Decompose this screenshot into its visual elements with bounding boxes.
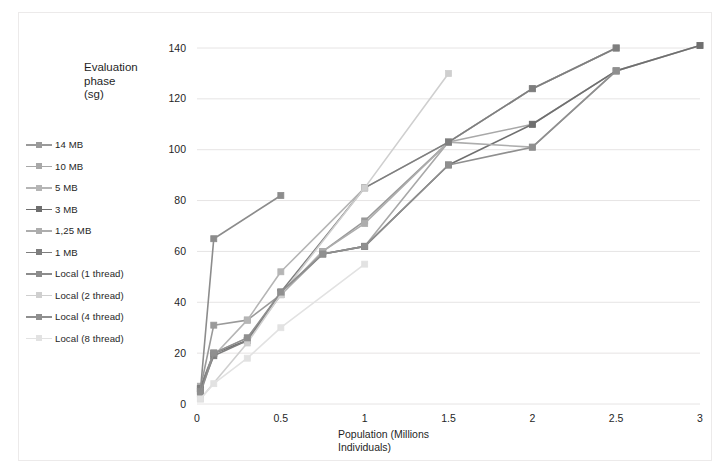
data-point <box>362 220 368 226</box>
series-line <box>200 48 616 391</box>
x-tick-label: 1 <box>362 412 368 424</box>
data-point <box>211 236 217 242</box>
data-point <box>362 243 368 249</box>
series-1-mb <box>197 45 619 392</box>
data-point <box>278 325 284 331</box>
series-line <box>200 264 364 399</box>
chart-svg: 020406080100120140 00.511.522.53 <box>0 0 726 475</box>
y-tick-label: 120 <box>168 92 186 104</box>
series-line <box>200 73 448 398</box>
data-point <box>362 185 368 191</box>
y-tick-label: 40 <box>174 296 186 308</box>
series-line <box>200 71 616 394</box>
data-point <box>613 68 619 74</box>
data-point <box>529 86 535 92</box>
series-10-mb <box>197 42 703 389</box>
series-local-2-thread- <box>197 70 451 401</box>
series-line <box>200 195 280 391</box>
data-point <box>320 251 326 257</box>
x-tick-label: 0.5 <box>274 412 289 424</box>
data-point <box>613 45 619 51</box>
series-line <box>200 45 700 388</box>
plot-area: 020406080100120140 00.511.522.53 <box>0 0 726 475</box>
x-tick-label: 1.5 <box>441 412 456 424</box>
data-point <box>211 322 217 328</box>
gridlines <box>197 48 700 404</box>
x-tick-label: 2.5 <box>609 412 624 424</box>
data-point <box>244 355 250 361</box>
data-point <box>278 289 284 295</box>
y-tick-label: 20 <box>174 347 186 359</box>
data-point <box>278 192 284 198</box>
data-point <box>211 381 217 387</box>
series-5-mb <box>197 45 619 394</box>
data-point <box>278 269 284 275</box>
data-point <box>211 350 217 356</box>
data-point <box>362 261 368 267</box>
y-tick-label: 0 <box>180 398 186 410</box>
y-tick-labels: 020406080100120140 <box>168 42 186 410</box>
series-local-8-thread- <box>197 261 367 402</box>
x-tick-label: 2 <box>529 412 535 424</box>
y-tick-label: 140 <box>168 42 186 54</box>
data-point <box>446 162 452 168</box>
series-local-4-thread- <box>197 68 619 397</box>
data-point <box>697 42 703 48</box>
x-axis-title: Population (Millions Individuals) <box>338 428 468 453</box>
x-tick-label: 3 <box>697 412 703 424</box>
data-point <box>529 121 535 127</box>
series-3-mb <box>197 42 703 391</box>
data-point <box>244 317 250 323</box>
y-tick-label: 60 <box>174 245 186 257</box>
y-tick-label: 100 <box>168 143 186 155</box>
data-point <box>197 396 203 402</box>
data-point <box>529 144 535 150</box>
series-line <box>200 45 700 386</box>
series-14-mb <box>197 45 619 392</box>
y-tick-label: 80 <box>174 194 186 206</box>
data-point <box>244 335 250 341</box>
data-point <box>446 139 452 145</box>
x-tick-labels: 00.511.522.53 <box>194 412 703 424</box>
data-point <box>446 70 452 76</box>
data-series <box>197 42 703 401</box>
chart-page: Evaluation phase (sg) 14 MB10 MB5 MB3 MB… <box>0 0 726 475</box>
x-tick-label: 0 <box>194 412 200 424</box>
